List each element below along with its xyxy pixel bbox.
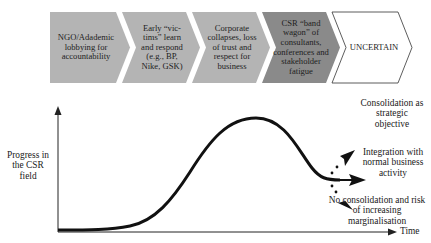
outcome-integration-label: Integration with normal business activit… [362, 147, 424, 178]
y-axis-arrowhead [55, 106, 62, 115]
x-axis-arrowhead [388, 229, 397, 236]
y-axis-label: Progress in the CSR field [4, 150, 52, 181]
stage-3-label: Corporate collapses, loss of trust and r… [204, 14, 260, 81]
stage-4-label: CSR “band wagon” of consultants, confere… [270, 14, 332, 81]
stage-1-label: NGO/Adademic lobbying for accountability [52, 14, 120, 81]
outcome-consolidation-label: Consolidation as strategic objective [360, 98, 424, 129]
consolidation-arrowhead [340, 150, 355, 166]
stage-5-label: UNCERTAIN [344, 14, 404, 81]
outcome-marginalisation-label: No consolidation and risk of increasing … [326, 195, 428, 226]
dot [336, 166, 339, 169]
progress-curve [58, 118, 340, 230]
x-axis-label: Time [400, 226, 428, 236]
dot [331, 185, 334, 188]
dot [335, 191, 338, 194]
stage-2-label: Early “vic-tims” learn and respond (e.g.… [136, 14, 188, 81]
dot [331, 172, 334, 175]
